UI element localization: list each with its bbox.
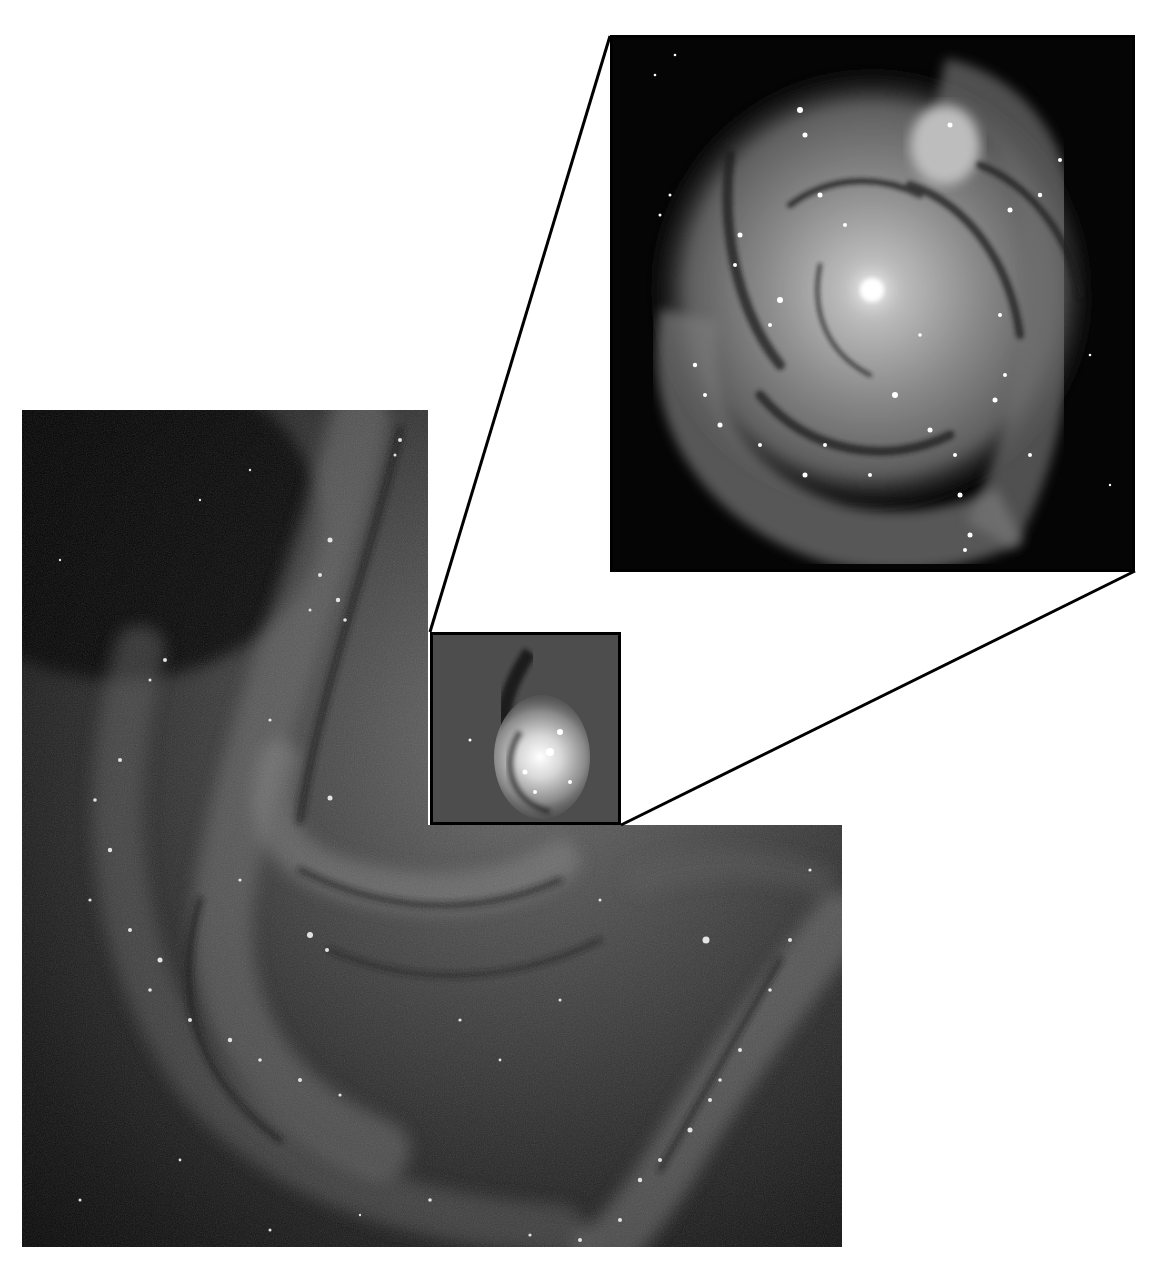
magnified-inset-image bbox=[610, 35, 1135, 572]
zoom-region-box bbox=[430, 632, 621, 825]
zoom-region-svg bbox=[430, 632, 621, 825]
magnified-inset-svg bbox=[610, 35, 1135, 572]
